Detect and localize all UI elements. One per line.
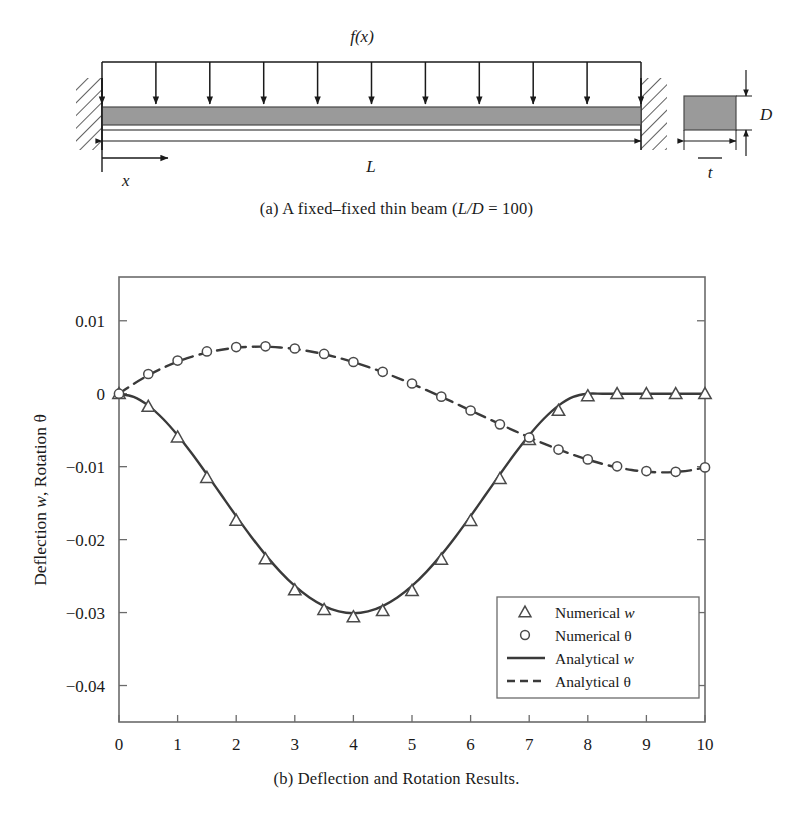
marker-circle xyxy=(521,631,530,640)
marker-circle xyxy=(525,433,534,442)
marker-circle xyxy=(173,356,182,365)
legend-label: Numerical w xyxy=(555,604,635,621)
results-plot: 012345678910 0.010−0.01−0.02−0.03−0.04 D… xyxy=(0,240,793,760)
x-tick-label: 5 xyxy=(408,735,417,754)
marker-circle xyxy=(290,344,299,353)
marker-circle xyxy=(320,349,329,358)
x-tick-label: 1 xyxy=(173,735,182,754)
marker-triangle xyxy=(376,605,388,616)
marker-circle xyxy=(349,357,358,366)
depth-label: D xyxy=(759,105,773,124)
marker-triangle xyxy=(201,471,213,482)
legend-label: Analytical w xyxy=(555,650,634,667)
x-tick-label: 6 xyxy=(466,735,475,754)
marker-triangle xyxy=(230,514,242,525)
data-markers-layer xyxy=(113,342,711,622)
cross-section-body xyxy=(684,96,736,130)
length-label: L xyxy=(365,157,375,176)
marker-triangle xyxy=(171,431,183,442)
x-tick-label: 10 xyxy=(697,735,714,754)
marker-triangle xyxy=(464,514,476,525)
results-plot-svg: 012345678910 0.010−0.01−0.02−0.03−0.04 D… xyxy=(0,240,793,760)
y-tick-label: 0 xyxy=(97,385,106,404)
caption-a: (a) A fixed–fixed thin beam (L/D = 100) xyxy=(0,199,793,219)
cross-section: D t xyxy=(684,70,773,182)
caption-b: (b) Deflection and Rotation Results. xyxy=(0,769,793,789)
caption-a-text: A fixed–fixed thin beam ( xyxy=(282,199,457,218)
left-fixed-support xyxy=(76,78,102,150)
y-axis-title: Deflection w, Rotation θ xyxy=(30,414,50,586)
x-tick-label: 7 xyxy=(525,735,534,754)
plot-legend: Numerical wNumerical θAnalytical wAnalyt… xyxy=(497,597,699,698)
x-tick-label: 0 xyxy=(115,735,124,754)
distributed-load xyxy=(102,62,641,104)
y-axis-title-theta: θ xyxy=(30,414,50,422)
marker-circle xyxy=(144,369,153,378)
marker-circle xyxy=(613,462,622,471)
marker-circle xyxy=(671,467,680,476)
marker-circle xyxy=(583,455,592,464)
x-tick-label: 2 xyxy=(232,735,241,754)
y-axis-title-w: w xyxy=(30,496,50,508)
x-coordinate-arrow: x xyxy=(102,78,168,190)
series-line xyxy=(119,393,705,613)
load-label: f(x) xyxy=(350,27,374,46)
x-label: x xyxy=(121,171,130,190)
marker-circle xyxy=(407,379,416,388)
marker-circle xyxy=(378,367,387,376)
legend-label: Analytical θ xyxy=(555,673,631,690)
y-axis-title-mid: , Rotation xyxy=(30,423,50,496)
y-axis-title-pre: Deflection xyxy=(30,508,50,586)
marker-group xyxy=(114,342,709,477)
y-tick-label: −0.02 xyxy=(66,531,105,550)
caption-a-ratio: L/D xyxy=(458,199,484,218)
marker-circle xyxy=(495,420,504,429)
y-tick-label: −0.03 xyxy=(66,604,105,623)
marker-circle xyxy=(261,342,270,351)
right-fixed-support xyxy=(641,78,667,150)
x-tick-label: 3 xyxy=(291,735,300,754)
marker-triangle xyxy=(494,472,506,483)
marker-circle xyxy=(202,347,211,356)
y-tick-label: 0.01 xyxy=(75,312,105,331)
y-tick-label: −0.04 xyxy=(66,677,106,696)
x-tick-label: 9 xyxy=(642,735,651,754)
beam-body xyxy=(102,107,641,125)
marker-circle xyxy=(700,463,709,472)
series-line xyxy=(119,347,705,473)
marker-group xyxy=(113,388,711,622)
y-tick-label: −0.01 xyxy=(66,458,105,477)
marker-circle xyxy=(437,392,446,401)
figure-page: f(x) xyxy=(0,0,793,823)
length-dimension: L xyxy=(102,141,641,176)
legend-label: Numerical θ xyxy=(555,627,632,644)
marker-circle xyxy=(232,342,241,351)
x-axis-ticks: 012345678910 xyxy=(115,715,714,754)
marker-circle xyxy=(466,406,475,415)
thickness-label: t xyxy=(708,163,714,182)
x-tick-label: 4 xyxy=(349,735,358,754)
marker-circle xyxy=(554,445,563,454)
marker-circle xyxy=(642,466,651,475)
x-tick-label: 8 xyxy=(584,735,593,754)
marker-circle xyxy=(114,389,123,398)
caption-a-equals: = 100) xyxy=(484,199,533,218)
caption-a-prefix: (a) xyxy=(260,199,279,218)
